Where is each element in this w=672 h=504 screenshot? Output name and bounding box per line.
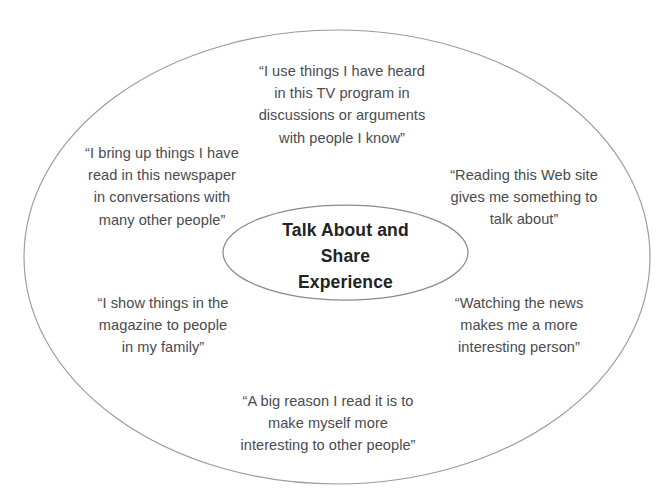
- quote-magazine: “I show things in the magazine to people…: [74, 292, 252, 359]
- concept-diagram: Talk About and Share Experience “I use t…: [0, 0, 672, 504]
- quote-newspaper: “I bring up things I have read in this n…: [62, 142, 262, 231]
- quote-news: “Watching the news makes me a more inter…: [428, 292, 610, 359]
- quote-web-site: “Reading this Web site gives me somethin…: [432, 164, 616, 231]
- center-label: Talk About and Share Experience: [243, 218, 448, 296]
- quote-reading: “A big reason I read it is to make mysel…: [216, 390, 440, 457]
- quote-tv-program: “I use things I have heard in this TV pr…: [236, 60, 448, 149]
